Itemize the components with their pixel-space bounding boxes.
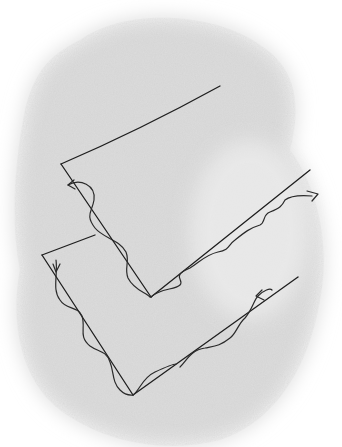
pencil-wash-background <box>15 18 324 446</box>
sketch-canvas <box>0 0 342 447</box>
